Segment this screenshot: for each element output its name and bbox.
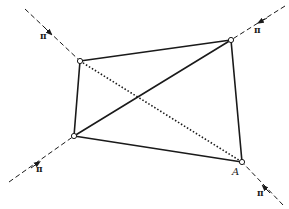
member-left: [74, 61, 80, 136]
force-line-bottom-right: [242, 162, 283, 205]
member-right: [231, 40, 242, 162]
members: [74, 40, 242, 162]
joints: [71, 37, 244, 164]
force-label-bottom-left: π: [36, 165, 43, 174]
force-label-top-left: π: [40, 32, 47, 41]
joint-bottom-left-icon: [71, 133, 76, 138]
force-label-top-right: π: [254, 26, 261, 35]
arrow-top-right-icon: [260, 18, 267, 22]
force-line-bottom-left: [9, 136, 74, 182]
joint-top-left-icon: [77, 58, 82, 63]
joint-bottom-right-icon: [239, 159, 244, 164]
member-diagonal-solid: [74, 40, 231, 136]
member-top: [80, 40, 231, 61]
member-diagonal-dotted: [80, 61, 242, 162]
force-label-bottom-right: π: [257, 189, 264, 198]
truss-diagram: π π π π A: [0, 0, 289, 209]
force-lines: [9, 6, 285, 205]
force-line-top-left: [25, 9, 80, 61]
node-label-A: A: [232, 167, 239, 177]
member-bottom: [74, 136, 242, 162]
joint-top-right-icon: [228, 37, 233, 42]
